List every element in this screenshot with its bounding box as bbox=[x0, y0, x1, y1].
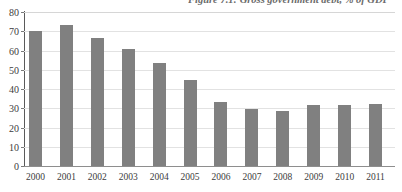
y-tick-label: 70 bbox=[9, 26, 19, 37]
y-tick-label: 0 bbox=[14, 161, 19, 172]
plot-area: 01020304050607080 bbox=[24, 12, 395, 166]
chart-page: Figure 7.1: Gross government debt, % of … bbox=[0, 0, 402, 192]
y-tick-mark bbox=[21, 51, 24, 52]
y-tick-label: 40 bbox=[9, 84, 19, 95]
y-tick-mark bbox=[21, 147, 24, 148]
y-tick-mark bbox=[21, 89, 24, 90]
bar bbox=[153, 63, 166, 166]
y-tick-label: 60 bbox=[9, 45, 19, 56]
y-tick-label: 50 bbox=[9, 64, 19, 75]
y-tick-mark bbox=[21, 70, 24, 71]
x-tick-label: 2010 bbox=[335, 172, 354, 182]
x-tick-label: 2001 bbox=[57, 172, 76, 182]
x-tick-label: 2003 bbox=[119, 172, 138, 182]
x-tick-label: 2005 bbox=[181, 172, 200, 182]
x-tick-label: 2011 bbox=[366, 172, 385, 182]
x-tick-label: 2007 bbox=[242, 172, 261, 182]
y-tick-mark bbox=[21, 31, 24, 32]
bar bbox=[245, 109, 258, 166]
bar bbox=[276, 111, 289, 166]
x-tick-label: 2009 bbox=[304, 172, 323, 182]
gridline bbox=[24, 12, 395, 13]
gridline bbox=[24, 51, 395, 52]
y-tick-mark bbox=[21, 128, 24, 129]
x-tick-label: 2002 bbox=[88, 172, 107, 182]
bar bbox=[91, 38, 104, 166]
bar bbox=[307, 105, 320, 166]
gridline bbox=[24, 31, 395, 32]
bar bbox=[184, 80, 197, 166]
x-tick-label: 2006 bbox=[211, 172, 230, 182]
x-tick-label: 2000 bbox=[26, 172, 45, 182]
gridline bbox=[24, 89, 395, 90]
y-tick-label: 20 bbox=[9, 122, 19, 133]
bar bbox=[214, 102, 227, 166]
y-tick-mark bbox=[21, 108, 24, 109]
bar bbox=[338, 105, 351, 166]
x-axis-line bbox=[24, 166, 395, 167]
y-tick-label: 10 bbox=[9, 141, 19, 152]
gridline bbox=[24, 70, 395, 71]
y-tick-mark bbox=[21, 166, 24, 167]
x-tick-label: 2008 bbox=[273, 172, 292, 182]
y-tick-mark bbox=[21, 12, 24, 13]
bar bbox=[369, 104, 382, 166]
chart-title: Figure 7.1: Gross government debt, % of … bbox=[188, 0, 402, 6]
bar bbox=[122, 49, 135, 166]
y-tick-label: 80 bbox=[9, 7, 19, 18]
x-tick-label: 2004 bbox=[150, 172, 169, 182]
bar bbox=[29, 31, 42, 166]
y-tick-label: 30 bbox=[9, 103, 19, 114]
bar bbox=[60, 25, 73, 166]
